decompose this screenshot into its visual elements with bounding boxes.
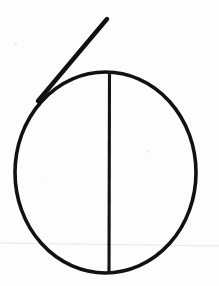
figure-canvas-root: [0, 0, 219, 286]
drawing-surface: [0, 0, 219, 286]
vertical-diameter-line: [109, 73, 110, 274]
